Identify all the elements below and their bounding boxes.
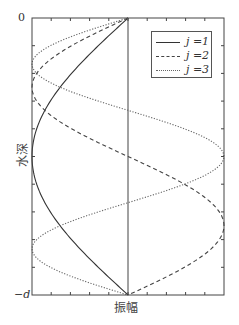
x-axis-label: 振幅 bbox=[114, 298, 138, 315]
series-j1-solid bbox=[32, 18, 128, 295]
legend-label: j =2 bbox=[186, 49, 209, 62]
legend: j =1 j =2 j =3 bbox=[151, 31, 212, 78]
legend-item-j2: j =2 bbox=[156, 50, 212, 62]
legend-item-j3: j =3 bbox=[156, 64, 212, 76]
legend-label: j =1 bbox=[186, 35, 209, 48]
y-tick-label-top: 0 bbox=[18, 11, 25, 24]
legend-label: j =3 bbox=[186, 63, 209, 76]
legend-item-j1: j =1 bbox=[156, 36, 212, 48]
dotted-line-icon bbox=[156, 70, 180, 71]
dashed-line-icon bbox=[156, 56, 180, 57]
y-tick-label-bottom: −d bbox=[14, 288, 30, 301]
y-axis-label: 水深 bbox=[13, 143, 30, 167]
solid-line-icon bbox=[156, 42, 180, 43]
